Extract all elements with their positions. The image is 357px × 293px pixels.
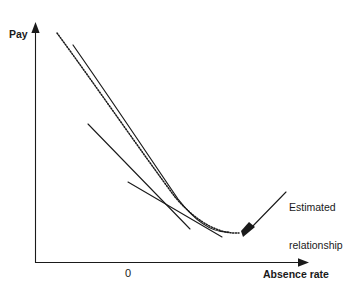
true-relationship-curve [73,45,229,232]
x-axis-origin-label: 0 [125,267,131,279]
annotation-estimated-relationship: Estimated relationship [289,176,343,276]
annotation-pointer-head [241,222,255,237]
tangent-line-2 [128,182,222,237]
annotation-line-2: relationship [289,239,343,252]
annotation-pointer-arrow-icon [241,192,286,237]
y-axis-title: Pay [9,28,28,40]
figure-estimated-relationship-diagram: Pay Absence rate 0 Estimated relationshi… [0,0,357,293]
y-axis-arrow-icon [31,22,39,33]
annotation-line-1: Estimated [289,201,343,214]
tangent-line-1 [88,124,190,229]
estimated-relationship-curve [57,33,239,233]
x-axis [36,258,310,266]
annotation-pointer-shaft [250,192,286,229]
y-axis [31,22,39,263]
